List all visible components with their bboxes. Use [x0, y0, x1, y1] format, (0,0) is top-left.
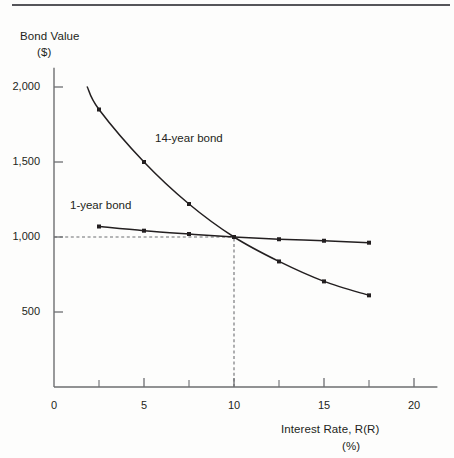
data-point-marker [97, 108, 101, 112]
x-tick-label-5: 5 [119, 399, 169, 411]
series-line-14-year-bond [87, 87, 369, 295]
data-point-marker [187, 232, 191, 236]
data-point-marker [187, 202, 191, 206]
plot-area [0, 0, 454, 458]
data-point-marker [367, 241, 371, 245]
y-tick-label-1,500: 1,500 [0, 155, 40, 167]
data-point-marker [97, 225, 101, 229]
data-point-marker [142, 160, 146, 164]
data-point-marker [322, 279, 326, 283]
data-point-marker [367, 293, 371, 297]
y-tick-label-1,000: 1,000 [0, 230, 40, 242]
y-tick-label-500: 500 [0, 305, 40, 317]
y-tick-label-2,000: 2,000 [0, 80, 40, 92]
x-tick-label-10: 10 [209, 399, 259, 411]
x-tick-label-15: 15 [299, 399, 349, 411]
data-point-marker [277, 259, 281, 263]
data-point-marker [232, 235, 236, 239]
x-tick-label-20: 20 [389, 399, 439, 411]
data-point-marker [142, 229, 146, 233]
x-tick-label-0: 0 [29, 399, 79, 411]
data-point-marker [277, 237, 281, 241]
data-point-marker [322, 239, 326, 243]
chart-figure: Bond Value ($) Interest Rate, R(R) (%) 1… [0, 0, 454, 458]
